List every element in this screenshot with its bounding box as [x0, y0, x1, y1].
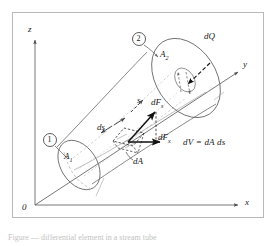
volume-relation-label: dV = dA ds	[183, 138, 226, 147]
caption-strip: Figure — differential element in a strea…	[0, 233, 278, 246]
arc-length-arrow-right	[114, 118, 125, 125]
origin-label: 0	[22, 203, 27, 212]
shear-force-vector	[128, 112, 155, 142]
normal-force-label: dFx	[158, 133, 171, 144]
normal-force-symbol: dF	[158, 132, 168, 142]
figure-root: z y x 0 1 2 A1 A2 dQ s ds dFs dFx dA dV …	[0, 0, 278, 246]
heat-flux-label: dQ	[204, 32, 215, 41]
outlet-area-subscript: 2	[166, 55, 169, 61]
normal-force-subscript: x	[168, 138, 171, 144]
y-axis-label: y	[243, 60, 247, 69]
streamline-coordinate-label: s	[137, 96, 141, 105]
shear-force-symbol: dF	[151, 97, 161, 107]
outlet-area-label: A2	[160, 50, 169, 61]
y-axis-projection-tick	[214, 92, 224, 100]
station-2-marker-label: 2	[137, 35, 141, 43]
inlet-area-label: A1	[64, 152, 73, 163]
station-1-marker-label: 1	[48, 136, 52, 144]
inlet-area-subscript: 1	[70, 157, 73, 163]
figure-caption: Figure — differential element in a strea…	[8, 233, 156, 242]
x-axis-label: x	[245, 198, 249, 207]
construction-lines	[73, 73, 224, 196]
outlet-subarea-ellipse	[170, 64, 199, 96]
z-axis-label: z	[28, 25, 32, 34]
differential-element	[101, 100, 160, 160]
shear-force-label: dFs	[151, 98, 163, 109]
shear-force-subscript: s	[161, 103, 163, 109]
station-2-leader	[144, 45, 158, 57]
element-area-label: dA	[133, 157, 143, 166]
arc-length-label: ds	[97, 123, 105, 132]
